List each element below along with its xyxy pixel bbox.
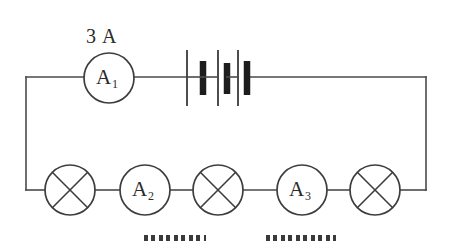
ammeter-a3-label: A3 <box>289 179 311 200</box>
ammeter-a2-base: A <box>132 177 147 201</box>
current-reading-label: 3 A <box>86 26 117 46</box>
circuit-svg <box>0 0 450 252</box>
answer-blank-under-a2[interactable] <box>144 235 206 241</box>
answer-blank-under-a3[interactable] <box>266 235 336 241</box>
circuit-diagram-canvas: 3 A A1 A2 A3 <box>0 0 450 252</box>
ammeter-a1-label: A1 <box>96 67 118 88</box>
ammeter-a3-subscript: 3 <box>305 189 311 203</box>
ammeter-a1-base: A <box>96 65 111 89</box>
ammeter-a2-label: A2 <box>132 179 154 200</box>
ammeter-a3-base: A <box>289 177 304 201</box>
ammeter-a2-subscript: 2 <box>148 189 154 203</box>
ammeter-a1-subscript: 1 <box>112 77 118 91</box>
